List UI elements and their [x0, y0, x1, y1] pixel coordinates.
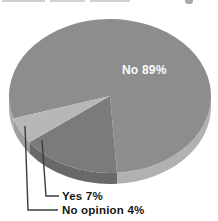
pie-chart-figure: No 89% Yes 7% No opinion 4% [0, 0, 218, 221]
pie-label-no-opinion: No opinion 4% [62, 204, 144, 217]
pie-label-no: No 89% [122, 64, 167, 77]
pie-slices-group [9, 19, 211, 173]
pie-chart-canvas [0, 0, 218, 221]
pie-label-yes: Yes 7% [62, 190, 103, 203]
